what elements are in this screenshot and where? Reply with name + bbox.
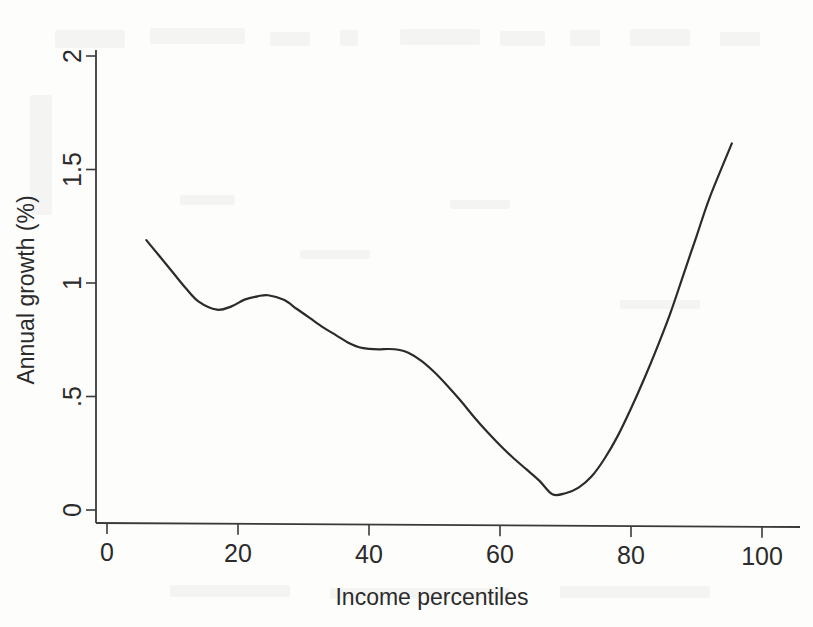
- y-axis-ticks: 0.511.52: [58, 49, 96, 517]
- x-tick-label: 80: [617, 541, 645, 569]
- y-tick-label: 1: [58, 276, 86, 290]
- x-axis-line: [96, 523, 800, 527]
- x-axis-title: Income percentiles: [335, 584, 528, 610]
- x-tick-label: 40: [355, 540, 383, 568]
- y-tick-label: 1.5: [58, 152, 86, 187]
- y-tick-label: 2: [58, 49, 86, 63]
- x-tick-label: 60: [486, 540, 514, 568]
- x-axis-ticks: 020406080100: [100, 523, 783, 570]
- x-tick-label: 0: [100, 538, 114, 566]
- figure-canvas: 0.511.52 020406080100 Annual growth (%) …: [0, 0, 813, 627]
- line-chart: 0.511.52 020406080100 Annual growth (%) …: [0, 0, 813, 627]
- data-series-line: [146, 143, 732, 495]
- y-tick-label: 0: [58, 503, 86, 517]
- x-tick-label: 20: [224, 539, 252, 567]
- y-axis-title: Annual growth (%): [13, 195, 39, 384]
- y-tick-label: .5: [58, 386, 86, 407]
- x-tick-label: 100: [741, 542, 783, 570]
